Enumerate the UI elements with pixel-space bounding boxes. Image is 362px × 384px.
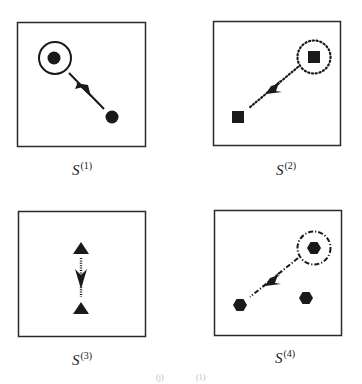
label-base: S	[72, 162, 80, 178]
panel-label-s3: S(3)	[72, 350, 92, 369]
square-marker-source	[308, 51, 320, 63]
circle-marker-target	[106, 111, 119, 124]
label-base: S	[275, 350, 283, 366]
hexagon-marker-source	[307, 242, 321, 254]
panel-s1	[18, 23, 146, 147]
label-superscript: (1)	[80, 160, 92, 171]
panel-label-s2: S(2)	[276, 160, 296, 179]
label-superscript: (4)	[283, 348, 295, 359]
panel-s4	[215, 211, 342, 336]
triangle-marker-target	[73, 302, 89, 314]
hexagon-marker-other	[299, 292, 313, 304]
circle-marker-source	[48, 52, 61, 65]
panel-label-s4: S(4)	[275, 348, 295, 367]
panel-label-s1: S(1)	[72, 160, 92, 179]
caption-fragment-right: (1)	[196, 373, 205, 382]
label-base: S	[72, 352, 80, 368]
hexagon-marker-target	[233, 299, 247, 311]
caption-fragment-left: (j)	[156, 373, 164, 382]
panel-s2	[214, 22, 341, 146]
diagram-canvas	[0, 0, 362, 384]
arrowhead-icon	[76, 83, 91, 97]
label-superscript: (3)	[80, 350, 92, 361]
arrowhead-icon	[265, 83, 281, 95]
panel-s3	[19, 212, 146, 337]
square-marker-target	[232, 111, 244, 123]
label-superscript: (2)	[284, 160, 296, 171]
arrowhead-icon	[75, 269, 87, 289]
triangle-marker-source	[73, 242, 89, 254]
label-base: S	[276, 162, 284, 178]
